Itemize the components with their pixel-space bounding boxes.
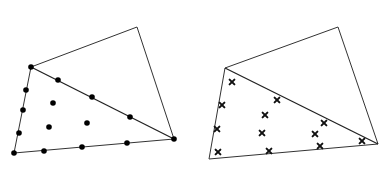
dot-marker <box>79 144 85 150</box>
dot-marker <box>127 114 133 120</box>
dot-marker <box>171 136 177 142</box>
background <box>0 0 392 184</box>
dot-marker <box>55 77 61 83</box>
dot-marker <box>41 148 47 154</box>
dot-marker <box>16 130 22 136</box>
dot-marker <box>28 64 34 70</box>
dot-marker <box>89 94 95 100</box>
figure-canvas <box>0 0 392 184</box>
dot-marker <box>124 140 130 146</box>
dot-marker <box>23 87 29 93</box>
dot-marker <box>84 120 90 126</box>
dot-marker <box>50 100 56 106</box>
dot-marker <box>20 107 26 113</box>
dot-marker <box>46 124 52 130</box>
dot-marker <box>11 150 17 156</box>
